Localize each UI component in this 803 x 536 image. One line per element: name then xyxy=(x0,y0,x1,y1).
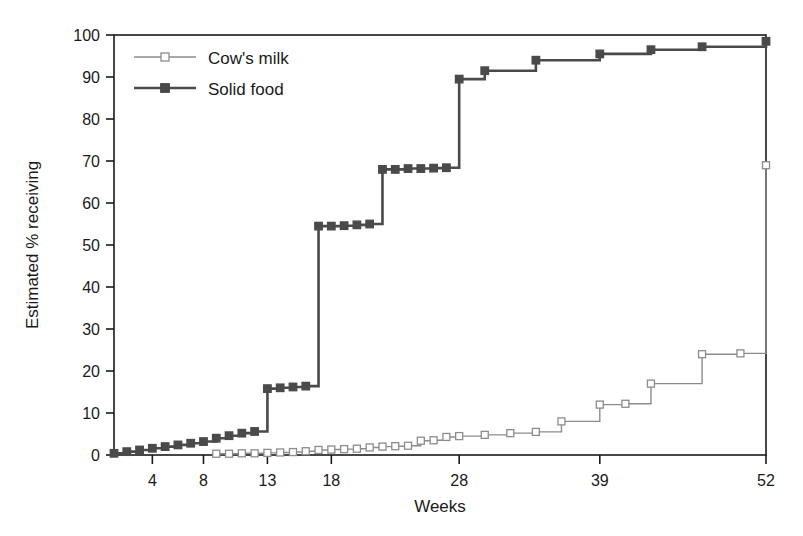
series-marker xyxy=(647,46,655,54)
legend-label: Cow's milk xyxy=(208,49,289,68)
series-marker xyxy=(315,222,323,230)
series-marker xyxy=(264,449,271,456)
series-marker xyxy=(341,446,348,453)
legend-label: Solid food xyxy=(208,80,284,99)
series-marker xyxy=(417,437,424,444)
series-marker xyxy=(392,443,399,450)
series-marker xyxy=(238,450,245,457)
series-marker xyxy=(379,166,387,174)
series-marker xyxy=(289,383,297,391)
series-marker xyxy=(225,432,233,440)
series-marker xyxy=(698,43,706,51)
y-tick-label: 90 xyxy=(82,69,100,86)
series-marker xyxy=(481,67,489,75)
series-marker xyxy=(532,56,540,64)
series-marker xyxy=(596,50,604,58)
series-marker xyxy=(443,433,450,440)
series-marker xyxy=(392,166,400,174)
series-marker xyxy=(161,443,169,451)
y-tick-label: 30 xyxy=(82,321,100,338)
x-tick-label: 52 xyxy=(757,472,775,489)
series-marker xyxy=(340,222,348,230)
series-marker xyxy=(200,438,208,446)
series-marker xyxy=(379,443,386,450)
x-axis-title: Weeks xyxy=(414,497,466,516)
series-marker xyxy=(149,445,157,453)
series-marker xyxy=(289,449,296,456)
x-tick-label: 39 xyxy=(591,472,609,489)
y-tick-label: 60 xyxy=(82,195,100,212)
series-marker xyxy=(251,428,258,436)
series-marker xyxy=(405,442,412,449)
x-tick-label: 13 xyxy=(259,472,277,489)
series-marker xyxy=(353,445,360,452)
legend-marker xyxy=(161,84,170,93)
x-tick-label: 18 xyxy=(322,472,340,489)
series-marker xyxy=(366,444,373,451)
series-marker xyxy=(443,164,451,172)
series-marker xyxy=(302,448,309,455)
y-tick-label: 20 xyxy=(82,363,100,380)
series-marker xyxy=(226,450,233,457)
y-tick-label: 10 xyxy=(82,405,100,422)
series-marker xyxy=(264,385,272,393)
series-marker xyxy=(532,428,539,435)
series-marker xyxy=(647,380,654,387)
series-marker xyxy=(762,38,770,46)
series-marker xyxy=(456,433,463,440)
series-marker xyxy=(187,439,195,447)
series-marker xyxy=(763,162,770,169)
series-marker xyxy=(596,401,603,408)
series-marker xyxy=(276,384,284,392)
series-marker xyxy=(110,450,118,458)
series-marker xyxy=(622,400,629,407)
series-marker xyxy=(238,429,246,437)
legend-marker xyxy=(161,53,169,61)
y-tick-label: 70 xyxy=(82,153,100,170)
series-marker xyxy=(277,449,284,456)
x-tick-label: 8 xyxy=(199,472,208,489)
y-tick-label: 50 xyxy=(82,237,100,254)
series-marker xyxy=(507,430,514,437)
y-tick-label: 80 xyxy=(82,111,100,128)
series-marker xyxy=(328,446,335,453)
y-tick-label: 0 xyxy=(91,447,100,464)
chart-figure: 0102030405060708090100 481318283952 Cow'… xyxy=(0,0,803,536)
series-marker xyxy=(404,165,412,173)
series-marker xyxy=(251,450,258,457)
y-tick-label: 40 xyxy=(82,279,100,296)
y-axis-title: Estimated % receiving xyxy=(23,161,42,329)
series-marker xyxy=(455,75,463,83)
series-marker xyxy=(699,351,706,358)
series-marker xyxy=(417,165,425,173)
series-marker xyxy=(737,350,744,357)
y-tick-label: 100 xyxy=(73,27,100,44)
series-marker xyxy=(430,164,438,172)
series-marker xyxy=(430,437,437,444)
series-marker xyxy=(213,434,221,442)
series-marker xyxy=(328,222,336,230)
series-marker xyxy=(123,448,131,456)
series-marker xyxy=(366,220,374,228)
chart-canvas: 0102030405060708090100 481318283952 Cow'… xyxy=(0,0,803,536)
series-marker xyxy=(136,446,144,454)
series-marker xyxy=(558,418,565,425)
series-marker xyxy=(213,450,220,457)
series-marker xyxy=(353,221,361,229)
series-marker xyxy=(302,382,310,390)
x-tick-label: 4 xyxy=(148,472,157,489)
x-tick-label: 28 xyxy=(450,472,468,489)
series-marker xyxy=(481,431,488,438)
series-marker xyxy=(315,446,322,453)
series-marker xyxy=(174,441,182,449)
